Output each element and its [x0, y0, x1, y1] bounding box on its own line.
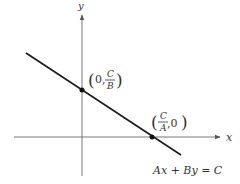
coord-second: ,0 [167, 117, 178, 130]
line-intercepts-diagram: x y ( 0, C B ) ( C A ,0 ) Ax + By = C [0, 0, 240, 184]
equation-label: Ax + By = C [152, 164, 223, 177]
paren-open: ( [151, 112, 158, 132]
y-axis-label: y [77, 0, 84, 11]
fraction-numerator: C [160, 111, 167, 121]
x-axis-label: x [226, 131, 233, 144]
graph-line [26, 53, 181, 155]
x-intercept-point [150, 135, 155, 140]
y-intercept-label: ( 0, C B ) [88, 69, 123, 91]
y-intercept-point [80, 88, 85, 93]
fraction-denominator: A [159, 123, 167, 133]
paren-close: ) [181, 112, 188, 132]
paren-open: ( [88, 70, 95, 90]
fraction-numerator: C [107, 69, 114, 79]
coord-first: 0, [95, 73, 106, 86]
paren-close: ) [116, 70, 123, 90]
x-intercept-label: ( C A ,0 ) [151, 111, 188, 133]
fraction-denominator: B [106, 81, 114, 91]
